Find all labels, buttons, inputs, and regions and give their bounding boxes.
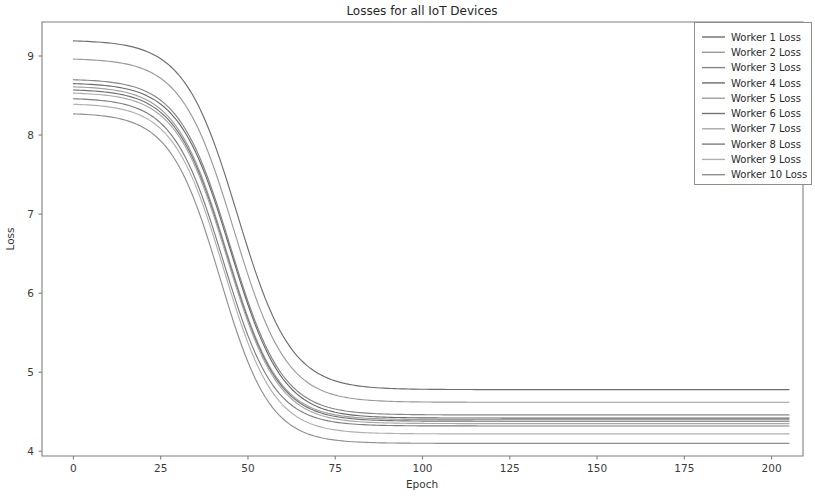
y-tick-label: 8 [27,129,34,141]
y-tick-label: 7 [27,208,34,220]
y-tick-label: 5 [27,366,34,378]
legend-label: Worker 6 Loss [731,108,801,119]
x-tick-label: 50 [241,462,254,474]
legend-label: Worker 10 Loss [731,169,807,180]
x-tick-label: 100 [412,462,432,474]
x-tick-label: 75 [329,462,342,474]
legend-label: Worker 9 Loss [731,154,801,165]
y-tick-label: 4 [27,445,34,457]
legend-label: Worker 4 Loss [731,78,801,89]
legend-label: Worker 1 Loss [731,32,801,43]
chart-title: Losses for all IoT Devices [346,4,497,18]
legend-label: Worker 7 Loss [731,123,801,134]
legend-label: Worker 5 Loss [731,93,801,104]
y-tick-label: 9 [27,50,34,62]
y-axis-label: Loss [4,227,16,250]
x-tick-label: 150 [587,462,607,474]
x-axis-label: Epoch [406,478,438,490]
x-tick-label: 200 [762,462,782,474]
chart-legend: Worker 1 LossWorker 2 LossWorker 3 LossW… [695,23,812,185]
loss-line-chart: Losses for all IoT Devices 0255075100125… [0,0,815,499]
x-tick-label: 175 [674,462,694,474]
x-tick-label: 0 [70,462,77,474]
legend-label: Worker 3 Loss [731,62,801,73]
chart-figure: Losses for all IoT Devices 0255075100125… [0,0,815,499]
legend-label: Worker 2 Loss [731,47,801,58]
x-axis-ticks: 0255075100125150175200 [70,456,782,474]
x-tick-label: 25 [154,462,167,474]
y-tick-label: 6 [27,287,34,299]
x-tick-label: 125 [500,462,520,474]
y-axis-ticks: 456789 [27,50,42,457]
legend-label: Worker 8 Loss [731,139,801,150]
plot-background [42,22,803,456]
